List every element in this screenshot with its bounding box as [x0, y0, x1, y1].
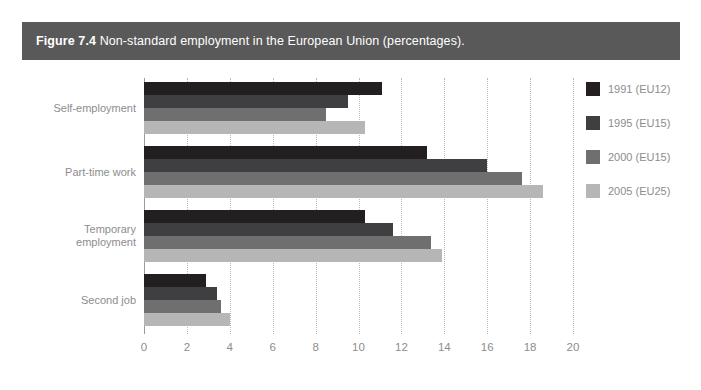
bar-group — [144, 274, 573, 326]
y-axis-label-2: Part-time work — [24, 166, 136, 179]
bar — [144, 223, 393, 236]
bar — [144, 82, 382, 95]
figure-container: Figure 7.4 Non-standard employment in th… — [0, 0, 701, 390]
bar — [144, 159, 487, 172]
x-tick-label-2: 2 — [184, 341, 190, 353]
legend-swatch-icon — [586, 82, 600, 96]
x-tick-label-4: 4 — [227, 341, 233, 353]
bar-group — [144, 82, 573, 134]
x-tick-label-12: 12 — [395, 341, 408, 353]
x-tick-label-20: 20 — [567, 341, 580, 353]
bar-group — [144, 210, 573, 262]
figure-caption-band: Figure 7.4 Non-standard employment in th… — [22, 22, 680, 60]
bar — [144, 185, 543, 198]
plot-area — [144, 78, 573, 334]
bar — [144, 121, 365, 134]
bar — [144, 249, 442, 262]
legend-swatch-icon — [586, 116, 600, 130]
bar — [144, 172, 522, 185]
bar-group — [144, 146, 573, 198]
legend-swatch-icon — [586, 184, 600, 198]
gridline-20 — [573, 78, 574, 334]
x-tick-label-0: 0 — [141, 341, 147, 353]
legend-swatch-icon — [586, 150, 600, 164]
legend-label: 1995 (EU15) — [608, 117, 670, 130]
x-tick-label-8: 8 — [312, 341, 318, 353]
y-axis-label-1: Self-employment — [24, 102, 136, 115]
figure-number: Figure 7.4 — [36, 34, 96, 48]
x-tick-label-6: 6 — [269, 341, 275, 353]
figure-caption-body: Non-standard employment in the European … — [100, 34, 465, 48]
x-tick-label-18: 18 — [524, 341, 537, 353]
bar — [144, 300, 221, 313]
bar — [144, 146, 427, 159]
y-axis-category-labels: Self-employmentPart-time workTemporary e… — [24, 78, 136, 334]
y-axis-label-4: Second job — [24, 294, 136, 307]
bar — [144, 108, 326, 121]
y-axis-label-3: Temporary employment — [24, 223, 136, 249]
figure-caption-text: Figure 7.4 Non-standard employment in th… — [36, 34, 465, 48]
bar — [144, 210, 365, 223]
bar — [144, 95, 348, 108]
x-tick-label-14: 14 — [438, 341, 451, 353]
legend-label: 2005 (EU25) — [608, 185, 670, 198]
legend-label: 2000 (EU15) — [608, 151, 670, 164]
x-axis-tick-labels: 02468101214161820 — [144, 341, 573, 361]
bar — [144, 287, 217, 300]
x-tick-label-10: 10 — [352, 341, 365, 353]
legend-label: 1991 (EU12) — [608, 83, 670, 96]
bar — [144, 236, 431, 249]
x-tick-label-16: 16 — [481, 341, 494, 353]
bar — [144, 313, 230, 326]
chart-legend: 1991 (EU12)1995 (EU15)2000 (EU15)2005 (E… — [586, 82, 696, 202]
bar — [144, 274, 206, 287]
